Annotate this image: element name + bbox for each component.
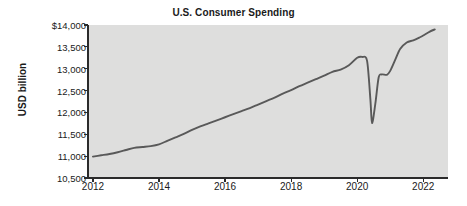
- x-axis-tick-label: 2014: [148, 181, 170, 192]
- plot-area: [0, 0, 467, 206]
- x-axis-tick-label: 2020: [346, 181, 368, 192]
- x-axis-tick-label: 2016: [214, 181, 236, 192]
- chart-figure: U.S. Consumer Spending USD billion 10,50…: [0, 0, 467, 206]
- chart-canvas: [0, 0, 467, 206]
- x-axis-tick-label: 2022: [412, 181, 434, 192]
- axes: [84, 25, 448, 182]
- series-line: [93, 29, 435, 156]
- x-axis-tick-label: 2012: [82, 181, 104, 192]
- x-axis-tick-label: 2018: [280, 181, 302, 192]
- data-series: [93, 29, 435, 156]
